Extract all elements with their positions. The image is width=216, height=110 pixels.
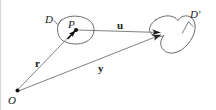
label-vector-u: u bbox=[117, 20, 123, 31]
vector-r-line bbox=[18, 32, 75, 91]
displacement-arrow bbox=[68, 31, 75, 39]
label-domain-source: D bbox=[45, 14, 53, 25]
source-region-leader-line bbox=[54, 20, 62, 25]
label-origin: O bbox=[8, 95, 16, 106]
label-vector-r: r bbox=[35, 58, 40, 69]
target-region-leader-line bbox=[183, 22, 194, 34]
label-point-p: P bbox=[68, 19, 75, 30]
figure-canvas bbox=[0, 0, 216, 110]
label-domain-target: D' bbox=[190, 9, 200, 20]
origin-dot bbox=[16, 89, 20, 93]
vector-diagram-figure: D P D' u r y O bbox=[0, 0, 216, 110]
page-edge-artifact bbox=[0, 0, 1, 110]
label-vector-y: y bbox=[98, 63, 104, 74]
